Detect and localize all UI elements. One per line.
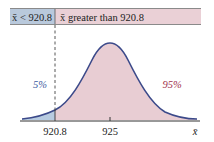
tick-label-cutoff: 920.8 — [43, 126, 67, 137]
x-axis-symbol: x̄ — [192, 126, 198, 137]
tick-label-mean: 925 — [102, 126, 118, 137]
right-percent-label: 95% — [162, 79, 182, 90]
header-right-label: x̄ greater than 920.8 — [60, 12, 144, 23]
header-left-label: x̄ < 920.8 — [12, 12, 52, 23]
left-percent-label: 5% — [33, 79, 47, 90]
sampling-distribution-chart: x̄ < 920.8 x̄ greater than 920.8 5% 95% … — [0, 0, 214, 142]
